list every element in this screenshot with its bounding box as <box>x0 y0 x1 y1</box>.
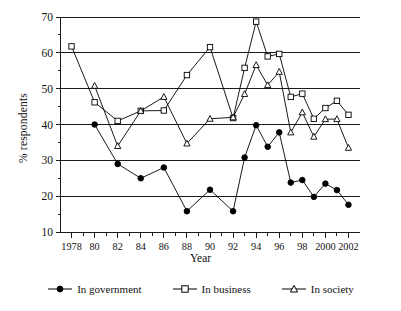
series-in-business <box>69 19 351 124</box>
series-in-society <box>92 62 352 151</box>
data-point <box>311 116 316 121</box>
y-tick-label-70: 70 <box>42 11 54 23</box>
data-point <box>92 100 97 105</box>
data-point <box>346 112 351 117</box>
legend-item-in-business[interactable]: In business <box>172 283 251 295</box>
data-point <box>276 69 282 75</box>
data-point <box>346 202 352 208</box>
y-tick-label-60: 60 <box>42 47 54 59</box>
data-point <box>288 94 293 99</box>
data-point <box>311 133 317 139</box>
data-point <box>69 44 74 49</box>
data-point <box>334 98 339 103</box>
y-tick-label-50: 50 <box>42 83 54 95</box>
data-point <box>334 187 340 193</box>
line-chart-svg: 1020304050607019788082848688909294969820… <box>0 0 401 311</box>
data-point <box>276 130 282 136</box>
x-tick-label-1980: 80 <box>90 241 100 252</box>
series-line <box>95 125 349 212</box>
data-point <box>311 194 317 200</box>
data-point <box>300 177 306 183</box>
data-point <box>207 44 212 49</box>
legend-label-in-society: In society <box>311 283 354 295</box>
data-point <box>115 118 120 123</box>
data-point <box>161 94 167 100</box>
data-point <box>265 144 271 150</box>
legend-item-in-government[interactable]: In government <box>47 283 141 295</box>
x-tick-label-1984: 84 <box>136 241 146 252</box>
x-tick-label-1978: 1978 <box>61 241 81 252</box>
data-point <box>184 72 189 77</box>
data-point <box>277 51 282 56</box>
x-tick-label-2000: 2000 <box>315 241 335 252</box>
chart-legend: In government In business In society <box>0 283 401 295</box>
data-point <box>299 109 305 115</box>
data-point <box>161 165 167 171</box>
data-point <box>138 175 144 181</box>
data-point <box>288 180 294 186</box>
data-point <box>207 187 213 193</box>
data-point <box>242 65 247 70</box>
legend-item-in-society[interactable]: In society <box>281 283 354 295</box>
series-line <box>72 22 349 121</box>
data-point <box>323 105 328 110</box>
x-tick-label-1990: 90 <box>205 241 215 252</box>
data-point <box>253 19 258 24</box>
x-tick-label-1996: 96 <box>274 241 284 252</box>
data-point <box>300 91 305 96</box>
x-tick-label-1994: 94 <box>251 241 261 252</box>
data-point <box>265 54 270 59</box>
data-point <box>184 208 190 214</box>
data-point <box>115 161 121 167</box>
x-tick-label-2002: 2002 <box>338 241 358 252</box>
data-point <box>230 208 236 214</box>
x-tick-label-1992: 92 <box>228 241 238 252</box>
data-point <box>242 155 248 161</box>
y-tick-label-10: 10 <box>42 226 54 238</box>
filled-circle-marker-icon <box>47 284 73 294</box>
chart-figure: % respondents Year 102030405060701978808… <box>0 0 401 311</box>
legend-label-in-business: In business <box>202 283 251 295</box>
data-point <box>288 129 294 135</box>
y-tick-label-30: 30 <box>42 154 54 166</box>
data-point <box>161 108 166 113</box>
data-point <box>92 122 98 128</box>
y-tick-label-20: 20 <box>42 190 54 202</box>
legend-label-in-government: In government <box>77 283 141 295</box>
x-tick-label-1988: 88 <box>182 241 192 252</box>
data-point <box>92 83 98 89</box>
data-point <box>242 91 248 97</box>
x-tick-label-1986: 86 <box>159 241 169 252</box>
series-line <box>95 65 349 148</box>
x-tick-label-1998: 98 <box>297 241 307 252</box>
data-point <box>345 144 351 150</box>
data-point <box>115 143 121 149</box>
plot-area: 1020304050607019788082848688909294969820… <box>0 0 401 311</box>
y-tick-label-40: 40 <box>42 119 54 131</box>
data-point <box>253 62 259 68</box>
data-point <box>253 122 259 128</box>
open-square-marker-icon <box>172 284 198 294</box>
data-point <box>323 181 329 187</box>
x-tick-label-1982: 82 <box>113 241 123 252</box>
open-triangle-marker-icon <box>281 284 307 294</box>
